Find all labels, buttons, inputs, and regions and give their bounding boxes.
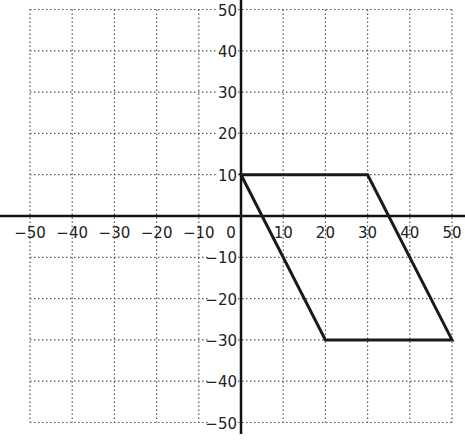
x-tick-label: −20 (141, 224, 173, 242)
y-tick-label: 20 (218, 125, 237, 143)
y-tick-label: −50 (205, 415, 237, 433)
y-tick-label: 30 (218, 84, 237, 102)
y-tick-label: 50 (218, 2, 237, 20)
x-tick-label: 30 (358, 224, 377, 242)
x-tick-label: −40 (56, 224, 88, 242)
x-tick-label: 20 (316, 224, 335, 242)
y-tick-label: −40 (205, 373, 237, 391)
y-tick-label: −30 (205, 332, 237, 350)
x-tick-label: 10 (274, 224, 293, 242)
y-tick-label: −10 (205, 249, 237, 267)
x-tick-label: −30 (99, 224, 131, 242)
x-tick-label: 40 (400, 224, 419, 242)
coordinate-plane-chart: −50−40−30−20−1001020304050 5040302010−10… (0, 0, 465, 440)
y-tick-label: 40 (218, 43, 237, 61)
y-tick-label: 10 (218, 167, 237, 185)
y-tick-label: −20 (205, 291, 237, 309)
x-tick-label: 50 (442, 224, 461, 242)
axes (0, 0, 465, 434)
x-tick-label: 0 (226, 224, 236, 242)
x-tick-label: −50 (14, 224, 46, 242)
x-tick-label: −10 (183, 224, 215, 242)
